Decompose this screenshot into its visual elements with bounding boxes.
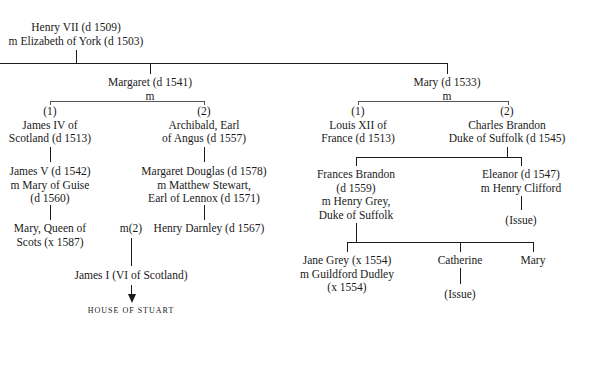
eleanor-name: Eleanor (d 1547) <box>481 168 561 182</box>
james-iv-name: James IV of <box>9 119 91 133</box>
mary-of-guise-detail: (d 1560) <box>9 192 90 206</box>
james-iv-node: (1) James IV of Scotland (d 1513) <box>9 105 91 146</box>
archibald-name: Archibald, Earl <box>162 119 246 133</box>
marriage-bracket <box>358 101 509 102</box>
connector-line <box>347 242 348 252</box>
mary-tudor-node: Mary (d 1533) m <box>413 76 480 103</box>
charles-brandon-detail: Duke of Suffolk (d 1545) <box>449 132 566 146</box>
connector-line <box>204 147 205 162</box>
connector-line <box>460 268 461 284</box>
connector-line <box>521 196 522 210</box>
catherine-node: Catherine <box>438 254 483 268</box>
eleanor-node: Eleanor (d 1547) m Henry Clifford <box>481 168 561 195</box>
connector-line <box>447 63 448 74</box>
mary-of-guise-name: m Mary of Guise <box>9 179 90 193</box>
ordinal-label: (1) <box>9 105 91 119</box>
louis-xii-detail: France (d 1513) <box>321 132 394 146</box>
matthew-stewart-detail: Earl of Lennox (d 1571) <box>141 192 266 206</box>
margaret-douglas-node: Margaret Douglas (d 1578) m Matthew Stew… <box>141 165 266 206</box>
connector-line <box>521 157 522 166</box>
margaret-douglas-name: Margaret Douglas (d 1578) <box>141 165 266 179</box>
ordinal-label: (1) <box>321 105 394 119</box>
james-iv-detail: Scotland (d 1513) <box>9 132 91 146</box>
mary-qos-name: Mary, Queen of <box>14 222 86 236</box>
connector-line <box>460 242 461 252</box>
louis-xii-name: Louis XII of <box>321 119 394 133</box>
charles-brandon-name: Charles Brandon <box>449 119 566 133</box>
ordinal-label: (2) <box>162 105 246 119</box>
henry-grey-name: m Henry Grey, <box>317 195 395 209</box>
connector-line <box>76 50 77 63</box>
frances-brandon-node: Frances Brandon (d 1559) m Henry Grey, D… <box>317 168 395 222</box>
mary-queen-of-scots-node: Mary, Queen of Scots (x 1587) <box>14 222 86 249</box>
connector-line <box>50 205 51 220</box>
james-v-name: James V (d 1542) <box>9 165 90 179</box>
mary-tudor-name: Mary (d 1533) <box>413 76 480 90</box>
catherine-issue-label: (Issue) <box>444 288 475 302</box>
archibald-node: (2) Archibald, Earl of Angus (d 1557) <box>162 105 246 146</box>
children-line <box>356 157 522 158</box>
frances-brandon-name: Frances Brandon <box>317 168 395 182</box>
house-of-stuart-label: HOUSE OF STUART <box>88 304 175 318</box>
connector-line <box>356 157 357 166</box>
matthew-stewart-name: m Matthew Stewart, <box>141 179 266 193</box>
frances-brandon-detail: (d 1559) <box>317 182 395 196</box>
elizabeth-of-york-name: m Elizabeth of York (d 1503) <box>9 35 144 49</box>
connector-line <box>356 223 357 242</box>
connector-line <box>204 205 205 220</box>
margaret-node: Margaret (d 1541) m <box>108 76 192 103</box>
mary-qos-detail: Scots (x 1587) <box>14 236 86 250</box>
connector-line <box>50 147 51 162</box>
guildford-dudley-detail: (x 1554) <box>300 281 394 295</box>
connector-line <box>507 147 508 157</box>
connector-line <box>533 242 534 252</box>
henry-vii-name: Henry VII (d 1509) <box>9 21 144 35</box>
marriage-label: m(2) <box>120 222 142 236</box>
james-v-node: James V (d 1542) m Mary of Guise (d 1560… <box>9 165 90 206</box>
guildford-dudley-name: m Guildford Dudley <box>300 268 394 282</box>
henry-grey-detail: Duke of Suffolk <box>317 209 395 223</box>
main-sibling-line <box>0 63 448 64</box>
charles-brandon-node: (2) Charles Brandon Duke of Suffolk (d 1… <box>449 105 566 146</box>
margaret-name: Margaret (d 1541) <box>108 76 192 90</box>
archibald-detail: of Angus (d 1557) <box>162 132 246 146</box>
jane-grey-node: Jane Grey (x 1554) m Guildford Dudley (x… <box>300 254 394 295</box>
marriage-bracket <box>50 101 205 102</box>
mary-grey-node: Mary <box>521 254 546 268</box>
henry-darnley-node: Henry Darnley (d 1567) <box>154 222 265 236</box>
henry-clifford-name: m Henry Clifford <box>481 182 561 196</box>
eleanor-issue-label: (Issue) <box>505 214 536 228</box>
connector-line <box>150 63 151 74</box>
henry-vii-node: Henry VII (d 1509) m Elizabeth of York (… <box>9 21 144 48</box>
jane-grey-name: Jane Grey (x 1554) <box>300 254 394 268</box>
children-line <box>347 242 534 243</box>
ordinal-label: (2) <box>449 105 566 119</box>
connector-line <box>131 238 132 266</box>
james-i-node: James I (VI of Scotland) <box>74 269 187 283</box>
louis-xii-node: (1) Louis XII of France (d 1513) <box>321 105 394 146</box>
arrow-down-icon <box>128 294 136 303</box>
